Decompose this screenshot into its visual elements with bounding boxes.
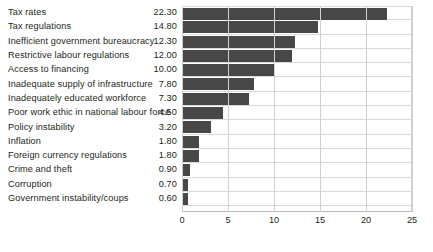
bar	[182, 78, 254, 90]
bar-track	[182, 178, 412, 192]
bar	[182, 164, 190, 176]
value-label: 0.60	[100, 194, 177, 203]
value-label: 0.70	[100, 180, 177, 189]
bar-track	[182, 6, 412, 20]
category-label: Inflation	[8, 137, 41, 146]
bar	[182, 93, 249, 105]
bar	[182, 8, 387, 20]
bar	[182, 107, 223, 119]
chart-row: Access to financing10.00	[0, 63, 433, 77]
bar-track	[182, 149, 412, 163]
chart-row: Tax regulations14.80	[0, 20, 433, 34]
category-label: Tax regulations	[8, 23, 71, 32]
x-tick-label: 20	[361, 216, 371, 225]
bar-track	[182, 135, 412, 149]
bar	[182, 150, 199, 162]
value-label: 0.90	[100, 166, 177, 175]
bar	[182, 36, 295, 48]
bar-track	[182, 192, 412, 206]
bar	[182, 136, 199, 148]
chart-row: Government instability/coups0.60	[0, 192, 433, 206]
chart-row: Inadequately educated workforce7.30	[0, 92, 433, 106]
bar-track	[182, 35, 412, 49]
value-label: 1.80	[100, 137, 177, 146]
value-label: 12.00	[100, 51, 177, 60]
value-label: 7.80	[100, 80, 177, 89]
bar-track	[182, 106, 412, 120]
bar-track	[182, 63, 412, 77]
category-label: Crime and theft	[8, 166, 72, 175]
bar-track	[182, 77, 412, 91]
bar-track	[182, 163, 412, 177]
x-tick-label: 25	[407, 216, 417, 225]
category-label: Corruption	[8, 180, 52, 189]
chart-row: Tax rates22.30	[0, 6, 433, 20]
chart-row: Foreign currency regulations1.80	[0, 149, 433, 163]
bar	[182, 193, 188, 205]
x-tick-label: 15	[315, 216, 325, 225]
x-tick-label: 0	[179, 216, 184, 225]
chart-row: Restrictive labour regulations12.00	[0, 49, 433, 63]
x-tick-label: 10	[269, 216, 279, 225]
value-label: 10.00	[100, 66, 177, 75]
chart-rows: Tax rates22.30Tax regulations14.80Ineffi…	[0, 6, 433, 212]
bar-track	[182, 49, 412, 63]
bar-track	[182, 20, 412, 34]
chart-row: Poor work ethic in national labour force…	[0, 106, 433, 120]
chart-row: Inflation1.80	[0, 135, 433, 149]
chart-row: Corruption0.70	[0, 178, 433, 192]
bar	[182, 21, 318, 33]
bar	[182, 179, 188, 191]
bar-chart: Tax rates22.30Tax regulations14.80Ineffi…	[0, 0, 433, 252]
bar	[182, 121, 211, 133]
chart-row: Inefficient government bureaucracy12.30	[0, 35, 433, 49]
category-label: Policy instability	[8, 123, 75, 132]
value-label: 1.80	[100, 152, 177, 161]
bar-track	[182, 92, 412, 106]
value-label: 4.50	[100, 109, 177, 118]
chart-row: Crime and theft0.90	[0, 163, 433, 177]
category-label: Access to financing	[8, 66, 89, 75]
x-axis: 0510152025	[0, 212, 433, 232]
chart-row: Inadequate supply of infrastructure7.80	[0, 77, 433, 91]
value-label: 12.30	[100, 37, 177, 46]
value-label: 14.80	[100, 23, 177, 32]
bar	[182, 50, 292, 62]
value-label: 3.20	[100, 123, 177, 132]
chart-row: Policy instability3.20	[0, 120, 433, 134]
bar	[182, 64, 274, 76]
x-tick-label: 5	[225, 216, 230, 225]
category-label: Tax rates	[8, 9, 46, 18]
value-label: 22.30	[100, 9, 177, 18]
bar-track	[182, 120, 412, 134]
value-label: 7.30	[100, 94, 177, 103]
